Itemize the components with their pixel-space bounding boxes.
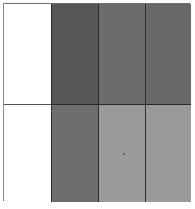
swatch-cell-r1c4[interactable] xyxy=(145,4,191,104)
speck-mark xyxy=(123,153,125,155)
swatch-cell-r1c3[interactable] xyxy=(98,4,145,104)
swatch-cell-r1c2[interactable] xyxy=(51,4,98,104)
swatch-grid xyxy=(3,3,190,201)
swatch-cell-r2c2[interactable] xyxy=(51,104,98,202)
swatch-figure xyxy=(3,3,190,201)
swatch-cell-r1c1[interactable] xyxy=(4,4,51,104)
swatch-cell-r2c1[interactable] xyxy=(4,104,51,202)
swatch-cell-r2c3[interactable] xyxy=(98,104,145,202)
swatch-cell-r2c4[interactable] xyxy=(145,104,191,202)
